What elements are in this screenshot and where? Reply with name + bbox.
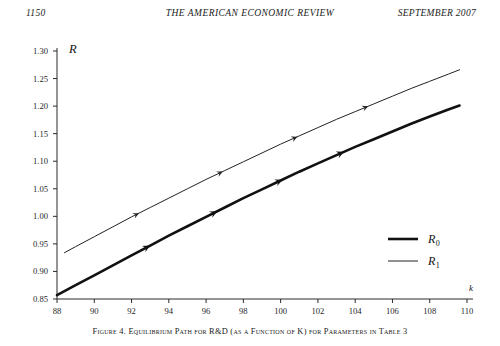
flow-arrow-R0 [142,242,152,252]
page-header: 1150 THE AMERICAN ECONOMIC REVIEW SEPTEM… [0,8,500,22]
y-tick-label: 1.30 [33,46,48,56]
issue-date: SEPTEMBER 2007 [398,8,476,18]
flow-arrow-R1 [216,169,224,177]
series-line-R0 [57,106,460,296]
y-axis-label: R [68,42,77,56]
legend-subscript-R1: 1 [436,261,440,270]
y-tick-label: 1.25 [33,74,48,84]
y-tick-label: 1.15 [33,129,48,139]
x-tick-label: 110 [461,306,474,316]
x-axis-ticks: 889092949698100102104106108110 [53,299,474,316]
flow-arrow-R1 [132,210,140,218]
y-tick-label: 1.20 [33,101,48,111]
x-tick-label: 104 [349,306,363,316]
y-tick-label: 1.10 [33,156,48,166]
y-tick-label: 0.95 [33,239,48,249]
series-line-R1 [64,70,459,253]
flow-arrow-R0 [274,176,284,186]
direction-arrows [132,103,369,252]
plot-canvas: 0.850.900.951.001.051.101.151.201.251.30… [0,24,500,324]
flow-arrow-R0 [336,149,346,159]
y-tick-label: 0.85 [33,294,48,304]
flow-arrow-R1 [291,134,299,142]
y-axis-ticks: 0.850.900.951.001.051.101.151.201.251.30 [33,46,57,304]
x-tick-label: 90 [90,306,99,316]
x-tick-label: 106 [386,306,400,316]
x-tick-label: 108 [423,306,436,316]
x-tick-label: 94 [165,306,174,316]
flow-arrow-R1 [361,103,369,111]
figure-4: 0.850.900.951.001.051.101.151.201.251.30… [0,24,500,324]
x-tick-label: 102 [311,306,324,316]
flow-arrow-R0 [209,208,219,218]
y-tick-label: 1.05 [33,184,48,194]
x-tick-label: 98 [239,306,248,316]
legend-subscript-R0: 0 [436,239,440,248]
x-tick-label: 100 [274,306,287,316]
chart-legend[interactable]: R0R1 [388,232,440,270]
x-axis-label: k [469,283,474,293]
x-tick-label: 96 [202,306,211,316]
y-tick-label: 0.90 [33,266,48,276]
legend-label-R0[interactable]: R0 [427,232,440,248]
legend-label-R1[interactable]: R1 [427,254,440,270]
axis-labels: Rk [68,42,474,293]
x-tick-label: 92 [127,306,136,316]
x-tick-label: 88 [53,306,62,316]
y-tick-label: 1.00 [33,211,48,221]
figure-caption: Figure 4. Equilibrium Path for R&D (as a… [0,327,500,336]
